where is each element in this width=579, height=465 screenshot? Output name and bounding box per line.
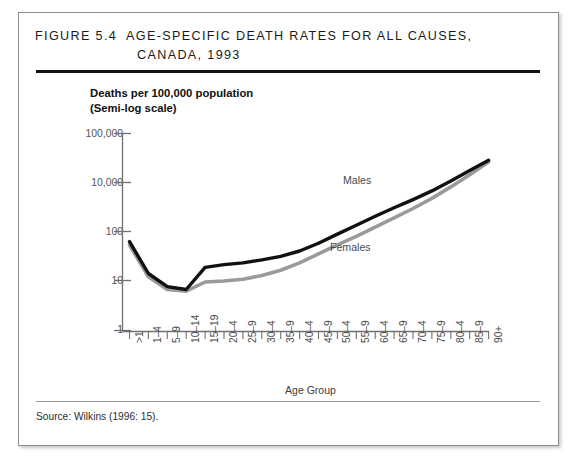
figure-frame: Figure 5.4 Age-Specific Death Rates for … <box>18 12 559 446</box>
x-tick-label: 1–4 <box>152 326 163 343</box>
x-tick-label: 65–9 <box>398 320 409 343</box>
x-axis-title-text: Age Group <box>285 384 336 396</box>
x-tick-label: 5–9 <box>171 326 182 343</box>
x-tick-label: 75–9 <box>436 320 447 343</box>
x-tick-label: 80–4 <box>455 320 466 343</box>
x-axis-title: Age Group <box>19 384 560 396</box>
source-note: Source: Wilkins (1996: 15). <box>36 411 158 422</box>
x-axis-tick-labels: >11–45–910–1415–1920–425–930–435–940–445… <box>19 13 560 447</box>
x-tick-label: 20–4 <box>228 320 239 343</box>
x-tick-label: 85–9 <box>474 320 485 343</box>
x-tick-label: 10–14 <box>190 315 201 343</box>
x-tick-label: 40–4 <box>304 320 315 343</box>
x-tick-label: 45–9 <box>323 320 334 343</box>
x-tick-label: 90+ <box>493 326 504 343</box>
x-tick-label: 50–4 <box>341 320 352 343</box>
x-tick-label: 60–4 <box>379 320 390 343</box>
x-tick-label: 35–9 <box>285 320 296 343</box>
source-divider-rule <box>36 401 540 402</box>
x-tick-label: 30–4 <box>266 320 277 343</box>
x-tick-label: >1 <box>134 331 145 343</box>
x-tick-label: 70–4 <box>417 320 428 343</box>
x-tick-label: 25–9 <box>247 320 258 343</box>
x-tick-label: 15–19 <box>209 315 220 343</box>
chart-plot-region: Deaths per 100,000 population(Semi-log s… <box>19 13 560 447</box>
x-tick-label: 55–9 <box>360 320 371 343</box>
